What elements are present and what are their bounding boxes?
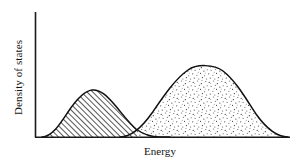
x-axis-label: Energy	[144, 145, 177, 157]
upper-band-fill	[120, 66, 288, 137]
dos-plot-canvas: Density of states Energy	[0, 0, 304, 164]
upper-band-area	[120, 66, 288, 137]
y-axis-label: Density of states	[12, 40, 24, 115]
density-of-states-figure: Density of states Energy	[0, 0, 304, 164]
